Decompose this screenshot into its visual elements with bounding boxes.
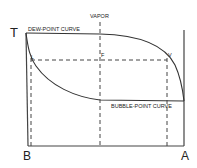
component-a-label: A: [181, 149, 189, 163]
component-b-label: B: [23, 149, 31, 163]
point-l-label: L: [31, 54, 34, 60]
bubble-point-curve: [26, 33, 184, 101]
vapor-region-label: VAPOR: [90, 13, 109, 19]
point-v-label: V: [168, 52, 172, 58]
bubble-point-curve-label: BUBBLE-POINT CURVE: [111, 103, 172, 109]
dew-point-curve: [26, 33, 184, 101]
dew-point-curve-label: DEW-POINT CURVE: [28, 26, 80, 32]
phase-diagram: T B A VAPOR DEW-POINT CURVE BUBBLE-POINT…: [0, 0, 197, 168]
temperature-axis-label: T: [10, 25, 18, 40]
left-axis: [26, 33, 28, 146]
point-f-label: F: [101, 52, 105, 58]
